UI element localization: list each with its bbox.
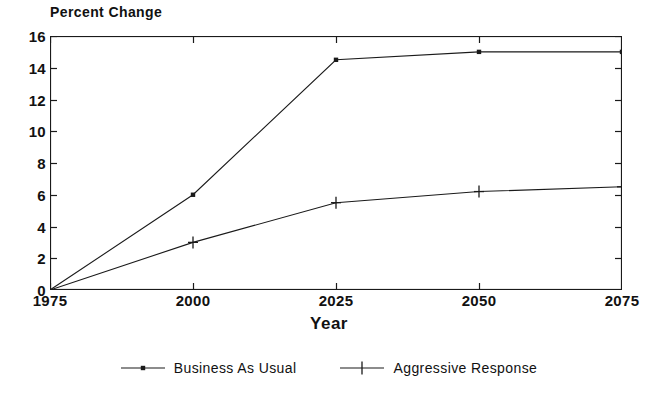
x-tick-label: 2000 bbox=[176, 292, 211, 309]
data-series-layer bbox=[50, 50, 622, 290]
y-tick-label: 2 bbox=[6, 250, 46, 267]
data-point-marker bbox=[334, 58, 338, 62]
x-tick-label: 2075 bbox=[605, 292, 640, 309]
axis-frame bbox=[51, 37, 622, 290]
y-tick-label: 14 bbox=[6, 59, 46, 76]
series-2 bbox=[50, 181, 622, 290]
chart-legend: Business As UsualAggressive Response bbox=[0, 360, 658, 376]
plot-canvas bbox=[50, 36, 622, 290]
y-tick-label: 4 bbox=[6, 218, 46, 235]
legend-entry-1[interactable]: Business As Usual bbox=[121, 360, 297, 376]
x-tick-label: 1975 bbox=[33, 292, 68, 309]
y-tick-label: 6 bbox=[6, 186, 46, 203]
line-chart: Percent Change 0246810121416 19752000202… bbox=[0, 0, 658, 396]
axis-tick-marks bbox=[50, 36, 622, 290]
legend-plus-line-icon bbox=[340, 361, 384, 375]
x-axis-title: Year bbox=[0, 314, 658, 334]
x-tick-label: 2050 bbox=[462, 292, 497, 309]
y-tick-label: 8 bbox=[6, 155, 46, 172]
y-axis-title: Percent Change bbox=[50, 4, 162, 20]
legend-entry-2[interactable]: Aggressive Response bbox=[340, 360, 537, 376]
legend-label: Business As Usual bbox=[174, 360, 297, 376]
y-tick-label: 16 bbox=[6, 28, 46, 45]
y-tick-label: 10 bbox=[6, 123, 46, 140]
plot-area bbox=[50, 36, 622, 290]
data-point-marker bbox=[620, 50, 622, 54]
x-tick-label: 2025 bbox=[319, 292, 354, 309]
y-tick-label: 12 bbox=[6, 91, 46, 108]
legend-label: Aggressive Response bbox=[393, 360, 537, 376]
data-point-marker bbox=[191, 193, 195, 197]
series-1 bbox=[50, 50, 622, 290]
legend-dot-line-icon bbox=[121, 361, 165, 375]
data-point-marker bbox=[477, 50, 481, 54]
